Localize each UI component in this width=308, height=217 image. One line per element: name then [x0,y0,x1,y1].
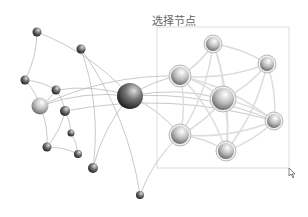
node[interactable] [136,191,144,199]
node[interactable] [171,126,189,144]
edge [25,32,37,80]
node[interactable] [74,150,82,158]
edge [81,49,140,195]
cursor-icon [289,168,295,178]
edge [180,44,213,135]
edge [37,32,130,96]
node[interactable] [260,57,274,71]
node[interactable] [77,45,86,54]
node[interactable] [218,143,234,159]
selection-label: 选择节点 [152,12,196,28]
node[interactable] [33,28,42,37]
node[interactable] [60,106,70,116]
node[interactable] [52,86,61,95]
node[interactable] [43,143,52,152]
node[interactable] [267,114,281,128]
node[interactable] [21,76,30,85]
node[interactable] [206,37,220,51]
edge [47,147,78,154]
node[interactable] [117,83,143,109]
node[interactable] [32,98,49,115]
node[interactable] [171,67,189,85]
node[interactable] [88,163,98,173]
node[interactable] [212,88,234,110]
node[interactable] [68,130,75,137]
edge [47,111,65,147]
network-graph[interactable] [0,0,308,217]
edge [65,103,274,121]
